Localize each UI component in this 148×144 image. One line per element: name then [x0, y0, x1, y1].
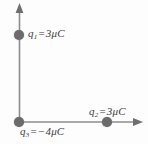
charge-subscript-q1: 1 — [34, 33, 38, 41]
charge-equals-q3: = — [29, 125, 37, 137]
charge-unit-q1: μC — [52, 27, 65, 39]
charge-symbol-q2: q — [89, 105, 95, 117]
charge-label-q2: q2=3μC — [89, 105, 126, 117]
charge-symbol-q1: q — [28, 27, 34, 39]
charge-subscript-q3: 3 — [26, 131, 30, 139]
charge-dot-q2 — [102, 117, 112, 127]
charge-unit-q3: μC — [51, 125, 64, 137]
charge-dot-q1 — [14, 30, 24, 40]
charge-label-q3: q3=−4μC — [20, 125, 64, 137]
charge-symbol-q3: q — [20, 125, 26, 137]
charge-diagram: q1=3μC q2=3μC q3=−4μC — [0, 0, 148, 144]
charge-value-q3: −4 — [38, 125, 51, 137]
y-axis-arrow-icon — [16, 3, 24, 13]
charge-equals-q1: = — [37, 27, 45, 39]
charge-subscript-q2: 2 — [95, 111, 99, 119]
charge-equals-q2: = — [98, 105, 106, 117]
x-axis-arrow-icon — [133, 118, 143, 126]
charge-unit-q2: μC — [113, 105, 126, 117]
charge-label-q1: q1=3μC — [28, 27, 65, 39]
